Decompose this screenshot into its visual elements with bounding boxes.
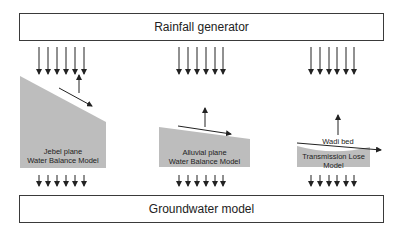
recharge-arrows-transmission	[311, 175, 354, 186]
recharge-arrows-jebel	[39, 175, 84, 186]
alluvial-label-line1: Alluvial plane	[159, 148, 250, 157]
recharge-arrows-alluvial	[179, 175, 223, 186]
rainfall-arrows-transmission	[311, 47, 354, 74]
transmission-loss-label: Transmission Lose Model	[297, 152, 370, 170]
groundwater-model-box: Groundwater model	[19, 195, 384, 223]
transmission-label-line1: Transmission Lose	[297, 152, 370, 161]
jebel-plane-label: Jebel plane Water Balance Model	[20, 147, 106, 165]
jebel-label-line2: Water Balance Model	[20, 156, 106, 165]
rainfall-arrows-jebel	[39, 47, 84, 74]
alluvial-plane-label: Alluvial plane Water Balance Model	[159, 148, 250, 166]
rainfall-arrows-alluvial	[179, 47, 223, 74]
alluvial-label-line2: Water Balance Model	[159, 157, 250, 166]
transmission-label-line2: Model	[297, 161, 370, 170]
wadi-bed-label: Wadi bed	[318, 137, 358, 146]
jebel-label-line1: Jebel plane	[20, 147, 106, 156]
groundwater-model-label: Groundwater model	[149, 202, 254, 216]
